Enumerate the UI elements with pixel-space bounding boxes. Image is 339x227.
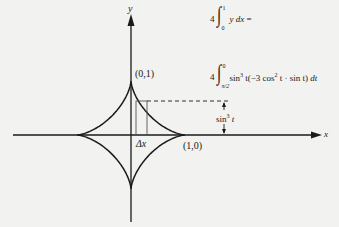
x-axis-arrowhead-icon (311, 132, 322, 139)
astroid-diagram (0, 0, 339, 227)
formula-area-integral: 4 ∫ 1 0 y dx = (210, 8, 252, 30)
formula-1-coefficient: 4 (210, 14, 215, 24)
formula-2-coefficient: 4 (210, 72, 215, 82)
height-label-var: t (232, 114, 235, 124)
formula-1-lower: 0 (222, 25, 225, 31)
formula-2-lower: π/2 (222, 83, 230, 89)
up-arrow-icon (222, 102, 226, 107)
integral-icon: ∫ 1 0 (216, 8, 226, 30)
height-label-func: sin (216, 114, 227, 124)
y-axis-label: y (128, 4, 132, 14)
formula-parametric-integral: 4 ∫ 0 π/2 sin3 t(−3 cos2 t · sin t) dt (210, 66, 317, 88)
integral-icon: ∫ 0 π/2 (216, 66, 226, 88)
height-label: sin3 t (216, 113, 234, 124)
x-axis-label: x (324, 130, 328, 139)
delta-x-label: Δx (136, 139, 146, 149)
top-cusp-label: (0,1) (135, 69, 154, 79)
formula-2-body: sin3 t(−3 cos2 t · sin t) dt (230, 72, 318, 83)
formula-1-body: y dx = (230, 14, 252, 24)
down-arrow-icon (222, 129, 226, 134)
formula-2-upper: 0 (223, 63, 226, 69)
y-axis-arrowhead-icon (128, 14, 135, 26)
formula-1-upper: 1 (223, 5, 226, 11)
right-cusp-label: (1,0) (183, 141, 202, 151)
height-label-exp: 3 (227, 113, 230, 119)
